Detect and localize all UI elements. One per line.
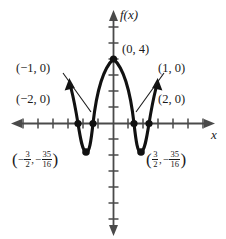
comma-left: ,: [31, 154, 34, 165]
label-root-neg-one: (−1, 0): [16, 62, 50, 75]
fraction-y-left: 35 16: [42, 150, 53, 168]
dot-root-neg-one: [89, 120, 96, 127]
minus-y-right: −: [163, 154, 169, 165]
paren-close-left: ): [53, 151, 59, 168]
label-minimum-right: ( 3 2 , − 35 16 ): [146, 150, 186, 168]
dot-min-left: [82, 148, 90, 156]
paren-close-right: ): [180, 151, 186, 168]
dot-root-neg-two: [74, 120, 81, 127]
fraction-x-left-numerator: 3: [24, 150, 30, 159]
label-root-pos-one: (1, 0): [158, 62, 185, 75]
fraction-x-right-numerator: 3: [152, 150, 158, 159]
fraction-x-left-denominator: 2: [24, 159, 30, 169]
fraction-y-right-numerator: 35: [169, 150, 180, 159]
minus-x-left: −: [18, 154, 24, 165]
label-minimum-left: ( − 3 2 , − 35 16 ): [12, 150, 58, 168]
fraction-y-right-denominator: 16: [169, 159, 180, 169]
dot-vertex-0-4: [110, 55, 117, 62]
dot-root-pos-two: [145, 120, 152, 127]
leader-line-neg-one: [63, 73, 91, 112]
paren-open-right: (: [146, 151, 152, 168]
fraction-y-left-numerator: 35: [42, 150, 53, 159]
label-vertex-0-4: (0, 4): [122, 43, 149, 56]
label-root-neg-two: (−2, 0): [16, 93, 50, 106]
minus-y-left: −: [35, 154, 41, 165]
fraction-x-right: 3 2: [152, 150, 158, 168]
fraction-y-left-denominator: 16: [42, 159, 53, 169]
comma-right: ,: [159, 154, 162, 165]
coordinate-plane: [0, 0, 226, 239]
label-root-pos-two: (2, 0): [158, 93, 185, 106]
dot-min-right: [137, 148, 145, 156]
fraction-x-right-denominator: 2: [152, 159, 158, 169]
graph-figure: f(x) x (0, 4) (−1, 0) (−2, 0) (1, 0) (2,…: [0, 0, 226, 239]
fraction-x-left: 3 2: [24, 150, 30, 168]
x-axis-label: x: [211, 128, 217, 141]
fraction-y-right: 35 16: [169, 150, 180, 168]
dot-root-pos-one: [130, 120, 137, 127]
y-axis-label: f(x): [120, 8, 138, 21]
